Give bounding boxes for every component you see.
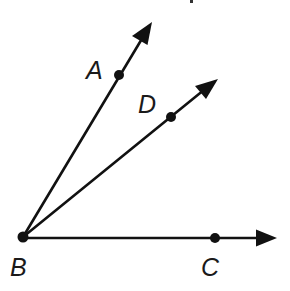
ray-bc: C: [23, 230, 277, 282]
label-d: D: [138, 90, 156, 118]
label-c: C: [201, 253, 220, 281]
ray-bd: D: [23, 79, 218, 237]
label-a: A: [84, 56, 103, 84]
cropped-mark: [190, 0, 193, 3]
point-a: [114, 70, 124, 80]
label-b: B: [10, 253, 27, 281]
angle-diagram: A D C B: [0, 0, 290, 291]
point-c: [210, 233, 220, 243]
point-b: [18, 232, 29, 243]
arrowhead-icon: [256, 230, 277, 247]
point-d: [166, 112, 176, 122]
ray-ba: A: [23, 22, 152, 237]
arrowhead-icon: [132, 22, 152, 45]
